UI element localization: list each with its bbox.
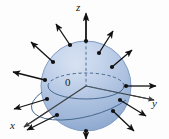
normal-arrow-10 <box>84 14 88 43</box>
y-axis-label: y <box>152 98 157 109</box>
normal-arrow-4-shaft <box>13 72 45 80</box>
x-axis-label: x <box>10 120 15 131</box>
normal-arrow-2-base-point <box>97 51 101 55</box>
normal-arrow-1 <box>31 42 55 64</box>
normal-arrow-6-base-point <box>55 113 59 117</box>
normal-arrow-8 <box>84 129 88 139</box>
normal-arrow-11-shaft <box>56 24 70 45</box>
normal-arrow-8-base-point <box>84 129 88 133</box>
normal-arrow-1-shaft <box>31 42 53 62</box>
normal-arrow-5-base-point <box>45 97 49 101</box>
normal-arrow-12-base-point <box>118 98 122 102</box>
normal-arrow-10-base-point <box>84 39 88 43</box>
origin-label: 0 <box>65 77 71 88</box>
normal-arrow-7-base-point <box>111 109 115 113</box>
figure-canvas <box>0 0 169 139</box>
normal-arrow-4-base-point <box>43 78 47 82</box>
normal-arrow-7-shaft <box>113 111 134 131</box>
z-axis-label: z <box>76 2 80 13</box>
normal-arrow-3-base-point <box>110 65 114 69</box>
normal-arrow-9-base-point <box>124 84 128 88</box>
normal-arrow-1-base-point <box>51 60 55 64</box>
normal-arrow-11-base-point <box>68 43 72 47</box>
vector-field-sphere-figure: z y x 0 <box>0 0 169 139</box>
normal-arrow-5-shaft <box>14 99 47 109</box>
normal-arrow-11 <box>56 24 72 47</box>
